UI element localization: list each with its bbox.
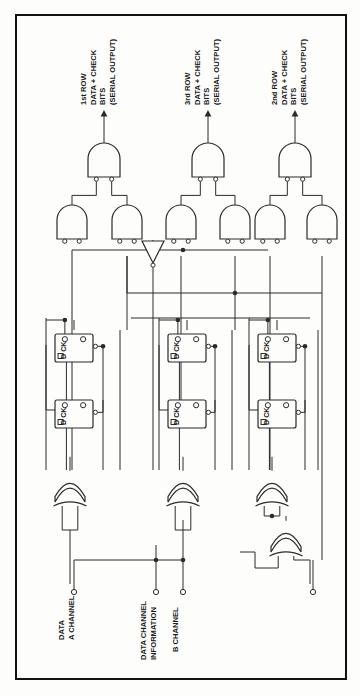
- nand-gate-nand-2a: [255, 205, 285, 239]
- nand-input-bubble-icon: [226, 239, 230, 243]
- bus-junction: [233, 291, 238, 296]
- ff-q-junction: [213, 344, 218, 349]
- input-label-a-line-0: DATA: [57, 620, 66, 640]
- nand-gate-nand-1a: [57, 205, 87, 239]
- nand-input-bubble-icon: [214, 177, 218, 181]
- input-junction: [181, 558, 186, 563]
- output-label-out-3-line-3: (SERIAL OUTPUT): [212, 38, 221, 105]
- flipflop-qbar-marker-icon: [284, 403, 289, 408]
- flipflop-q-marker-icon: [175, 403, 180, 408]
- nand-gate-nand-out-3: [192, 143, 224, 177]
- output-label-out-1-line-0: 1st ROW: [79, 73, 88, 105]
- output-label-out-3-line-1: DATA + CHECK: [193, 49, 202, 105]
- nand-input-bubble-icon: [275, 239, 279, 243]
- nand-input-bubble-icon: [240, 239, 244, 243]
- flipflop-input-label-ff-2-bot: D CK: [262, 407, 271, 425]
- output-label-out-2-line-3: (SERIAL OUTPUT): [299, 38, 308, 105]
- output-label-out-1-line-3: (SERIAL OUTPUT): [108, 38, 117, 105]
- output-label-out-3-line-0: 3rd ROW: [183, 72, 192, 105]
- nand-input-bubble-icon: [63, 239, 67, 243]
- input-junction: [154, 558, 159, 563]
- input-label-b-line-0: B CHANNEL: [171, 607, 180, 652]
- ff-clk-junction: [176, 318, 181, 323]
- nand-gate-nand-2b: [307, 205, 337, 239]
- nand-input-bubble-icon: [77, 239, 81, 243]
- nand-input-bubble-icon: [110, 177, 114, 181]
- input-label-info-line-0: DATA CHANNEL: [139, 601, 148, 660]
- input-terminal-in-unlabeled[interactable]: [310, 589, 315, 594]
- flipflop-input-label-ff-3-top: D CK: [172, 341, 181, 359]
- circuit-schematic-svg: D CKD CKD CKD CKD CKD CK1st ROWDATA + CH…: [0, 0, 360, 696]
- flipflop-qbar-marker-icon: [284, 337, 289, 342]
- nand-input-bubble-icon: [285, 177, 289, 181]
- nand-gate-nand-out-1: [88, 143, 120, 177]
- output-label-out-1-line-2: BITS: [98, 88, 107, 105]
- flipflop-input-label-ff-3-bot: D CK: [172, 407, 181, 425]
- flipflop-output-bubble-icon: [206, 344, 210, 348]
- flipflop-output-bubble-icon: [296, 410, 300, 414]
- nand-input-bubble-icon: [198, 177, 202, 181]
- nand-input-bubble-icon: [186, 239, 190, 243]
- flipflop-qbar-marker-icon: [194, 403, 199, 408]
- input-terminal-in-b[interactable]: [180, 589, 185, 594]
- flipflop-input-label-ff-2-top: D CK: [262, 341, 271, 359]
- schematic-page: D CKD CKD CKD CKD CKD CK1st ROWDATA + CH…: [0, 0, 360, 696]
- ff-clk-junction: [63, 318, 68, 323]
- flipflop-q-marker-icon: [265, 403, 270, 408]
- input-terminal-in-a[interactable]: [71, 589, 76, 594]
- nand-input-bubble-icon: [327, 239, 331, 243]
- flipflop-q-marker-icon: [62, 403, 67, 408]
- flipflop-qbar-marker-icon: [81, 337, 86, 342]
- inverter-bubble-icon: [151, 263, 155, 267]
- output-label-out-1-line-1: DATA + CHECK: [89, 49, 98, 105]
- output-label-out-2-line-0: 2nd ROW: [270, 70, 279, 105]
- ff-q-junction: [101, 344, 106, 349]
- nand-input-bubble-icon: [313, 239, 317, 243]
- flipflop-output-bubble-icon: [296, 344, 300, 348]
- nand-input-bubble-icon: [261, 239, 265, 243]
- ff-q-junction: [303, 344, 308, 349]
- flipflop-qbar-marker-icon: [81, 403, 86, 408]
- nand-gate-nand-3b: [220, 205, 250, 239]
- output-label-out-2-line-1: DATA + CHECK: [280, 49, 289, 105]
- nand-input-bubble-icon: [172, 239, 176, 243]
- input-terminal-in-info[interactable]: [153, 589, 158, 594]
- flipflop-input-label-ff-1-bot: D CK: [59, 407, 68, 425]
- flipflop-qbar-marker-icon: [194, 337, 199, 342]
- nand-gate-nand-3a: [166, 205, 196, 239]
- nand-input-bubble-icon: [94, 177, 98, 181]
- flipflop-output-bubble-icon: [93, 344, 97, 348]
- ff-clk-junction: [266, 318, 271, 323]
- nand-gate-nand-1b: [112, 205, 142, 239]
- nand-input-bubble-icon: [301, 177, 305, 181]
- output-label-out-2-line-2: BITS: [289, 88, 298, 105]
- input-label-a-line-1: A CHANNEL: [67, 595, 76, 640]
- flipflop-output-bubble-icon: [206, 410, 210, 414]
- flipflop-input-label-ff-1-top: D CK: [59, 341, 68, 359]
- bus-junction: [181, 248, 186, 253]
- flipflop-q-marker-icon: [265, 337, 270, 342]
- flipflop-q-marker-icon: [62, 337, 67, 342]
- nand-gate-nand-out-2: [279, 143, 311, 177]
- xor-junction: [270, 514, 275, 519]
- input-label-info-line-1: INFORMATION: [149, 607, 158, 660]
- nand-input-bubble-icon: [118, 239, 122, 243]
- output-label-out-3-line-2: BITS: [202, 88, 211, 105]
- flipflop-output-bubble-icon: [93, 410, 97, 414]
- nand-input-bubble-icon: [132, 239, 136, 243]
- flipflop-q-marker-icon: [175, 337, 180, 342]
